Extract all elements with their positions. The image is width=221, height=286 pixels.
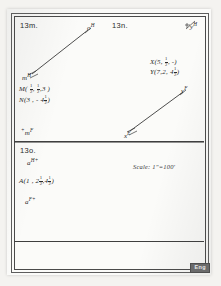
vector-head-sup-13n: F <box>184 85 187 91</box>
coordinate-point-A: A(1 , 212,412) <box>19 176 54 186</box>
scanned-page: 13m. mH oH M( 12, 12,3 ) N(4 1/23 , - 41… <box>0 0 221 286</box>
vector-tail-sup-13n: E <box>127 130 130 136</box>
point-A-z-fraction: 12 <box>48 176 51 186</box>
vector-line-13n <box>0 0 221 286</box>
problem-label-13o: 13o. <box>20 146 36 155</box>
bottom-axis-plus-13o: + <box>32 196 36 202</box>
bottom-axis-label-13o: aF+ <box>25 196 36 206</box>
page-stamp: Eng <box>190 263 210 274</box>
vector-head-label-13n: yF <box>181 85 188 95</box>
point-A-y-fraction: 12 <box>39 176 42 186</box>
top-axis-label-13o: aH+ <box>27 157 38 167</box>
top-axis-plus-13o: + <box>35 157 39 163</box>
vector-tail-label-13n: xE <box>124 130 131 140</box>
scale-note-13o: Scale: 1"=100' <box>133 163 175 170</box>
